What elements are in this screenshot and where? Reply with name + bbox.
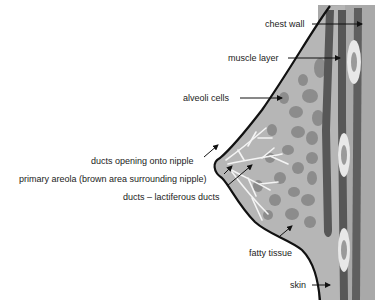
label-muscle-layer: muscle layer xyxy=(228,53,279,63)
label-alveoli-cells: alveoli cells xyxy=(183,93,230,103)
label-ducts-opening: ducts opening onto nipple xyxy=(91,156,194,166)
label-skin: skin xyxy=(290,280,306,290)
label-primary-areola: primary areola (brown area surrounding n… xyxy=(19,174,207,184)
label-chest-wall: chest wall xyxy=(265,19,305,29)
diagram-canvas: chest wall muscle layer alveoli cells du… xyxy=(0,0,383,306)
breast-anatomy-diagram: chest wall muscle layer alveoli cells du… xyxy=(0,0,383,306)
label-ducts-lactiferous: ducts – lactiferous ducts xyxy=(123,192,220,202)
label-fatty-tissue: fatty tissue xyxy=(249,248,292,258)
